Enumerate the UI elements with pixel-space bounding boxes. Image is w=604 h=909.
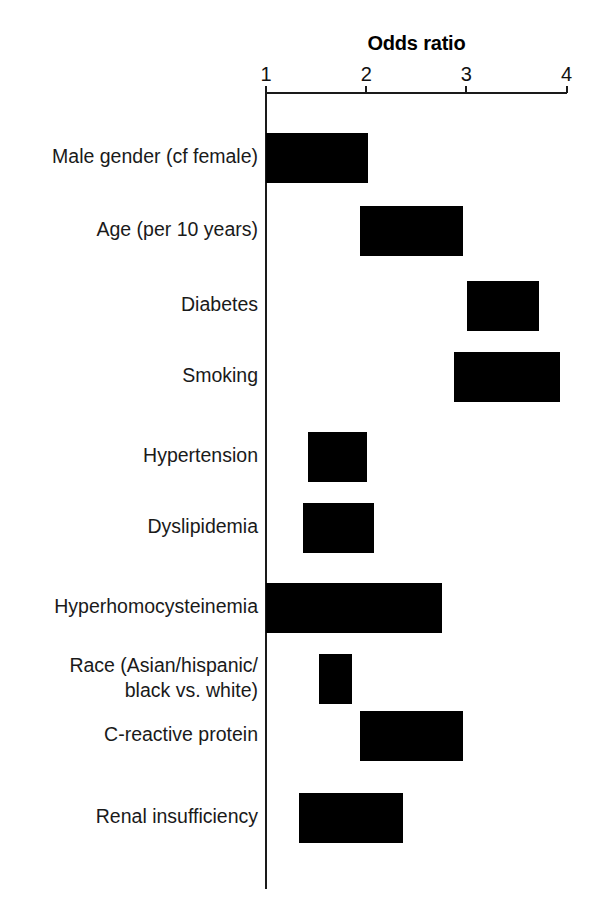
bar-interval	[360, 206, 463, 256]
x-axis-tick-mark-1	[265, 86, 267, 93]
x-axis-tick-mark-3	[465, 86, 467, 93]
x-axis-tick-label-2: 2	[361, 63, 372, 86]
bar-interval	[319, 654, 352, 704]
x-axis-tick-label-4: 4	[561, 63, 572, 86]
odds-ratio-chart-figure: Odds ratio 1234Male gender (cf female)Ag…	[0, 0, 604, 909]
bar-interval	[360, 711, 463, 761]
bar-interval	[299, 793, 403, 843]
y-axis-line	[265, 92, 267, 889]
bar-interval	[454, 352, 559, 402]
category-label: Renal insufficiency	[0, 804, 258, 829]
category-label: Age (per 10 years)	[0, 217, 258, 242]
category-label: C-reactive protein	[0, 722, 258, 747]
x-axis-tick-label-1: 1	[260, 63, 271, 86]
category-label: Dyslipidemia	[0, 514, 258, 539]
bar-interval	[266, 583, 442, 633]
x-axis-tick-mark-2	[365, 86, 367, 93]
chart-title: Odds ratio	[266, 32, 567, 55]
category-label: Smoking	[0, 363, 258, 388]
category-label: Diabetes	[0, 292, 258, 317]
category-label: Race (Asian/hispanic/ black vs. white)	[0, 653, 258, 703]
bar-interval	[308, 432, 367, 482]
category-label: Male gender (cf female)	[0, 144, 258, 169]
category-label: Hyperhomocysteinemia	[0, 594, 258, 619]
bar-interval	[266, 133, 368, 183]
bar-interval	[303, 503, 374, 553]
x-axis-tick-mark-4	[566, 86, 568, 93]
x-axis-line	[266, 92, 567, 94]
bar-interval	[467, 281, 538, 331]
category-label: Hypertension	[0, 443, 258, 468]
x-axis-tick-label-3: 3	[461, 63, 472, 86]
